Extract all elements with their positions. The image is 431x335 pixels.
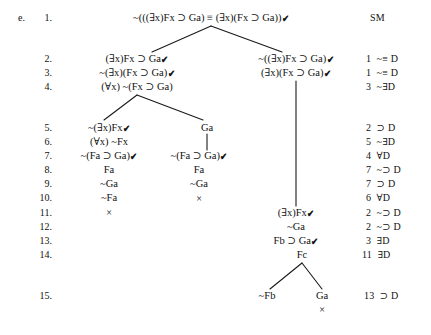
tree-node-formula: ~Fb [259,290,276,301]
tree-node-formula: ~Ga [287,221,305,232]
justification: 2 ~⊃ D [366,221,401,232]
tree-node: Ga [316,290,328,302]
tree-node-formula: ~((∃x)Fx ⊃ Ga) [258,53,326,64]
line-number: 14. [30,249,52,260]
justification-rule: SM [370,12,385,23]
branch-closed-icon: × [319,304,325,315]
justification-rule: ⊃ D [377,178,396,189]
justification: 11 ∃D [362,249,390,260]
justification-rule: ∃D [377,235,390,246]
justification-reference: 7 [366,178,371,189]
justification-reference: 7 [366,164,371,175]
line-number: 4. [30,81,52,92]
tree-node-formula: Ga [316,290,328,301]
justification: 7 ⊃ D [366,178,395,189]
justification-reference: 1 [366,67,371,78]
line-number: 10. [30,192,52,203]
justification-reference: 3 [366,235,371,246]
tree-node-formula: ~Ga [100,178,118,189]
tree-node: ~((∃x)Fx ⊃ Ga)✔ [258,53,334,65]
tree-node-formula: ~Ga [190,178,208,189]
tree-node: Fa [194,164,205,176]
justification-reference: 2 [366,207,371,218]
tree-node: (∃x)Fx✔ [278,207,315,219]
line-number: 9. [30,178,52,189]
justification-reference: 1 [366,53,371,64]
justification-rule: ~∃D [377,81,396,92]
tree-node: ~Ga [190,178,208,190]
tree-node-formula: ~(Fa ⊃ Ga) [171,150,220,161]
justification-rule: ⊃ D [380,290,399,301]
tree-node: ~(Fa ⊃ Ga)✔ [171,150,228,162]
tree-node: Fc [297,249,308,261]
justification-rule: ~⊃ D [377,207,401,218]
justification-rule: ∀D [377,150,391,161]
tree-node: ~Fb [259,290,276,302]
tree-node-formula: (∀x) ~Fx [90,136,128,147]
line-number: 2. [30,53,52,64]
tree-node: ~Fa [101,192,117,204]
justification-rule: ~⊃ D [377,221,401,232]
line-number: 11. [30,207,52,218]
problem-label: e. [18,12,25,23]
tree-node-formula: ~(Fa ⊃ Ga) [81,150,130,161]
tree-node-formula: (∀x) ~(Fx ⊃ Ga) [101,81,172,92]
tree-node: (∃x)Fx ⊃ Ga✔ [106,53,169,65]
check-icon: ✔ [327,54,333,66]
branch-closed-icon: × [106,207,112,218]
tree-node-formula: (∃x)Fx [278,207,307,218]
line-number: 8. [30,164,52,175]
tree-node: ~(Fa ⊃ Ga)✔ [81,150,138,162]
tree-node-formula: (∃x)(Fx ⊃ Ga) [261,67,323,78]
line-number: 15. [30,290,52,301]
check-icon: ✔ [282,13,288,25]
tree-node-formula: Fc [297,249,308,260]
tree-node: Fb ⊃ Ga✔ [274,235,319,247]
tree-node-formula: Ga [201,122,213,133]
line-number: 1. [30,12,52,23]
check-icon: ✔ [168,68,174,80]
tree-node: ~Ga [287,221,305,233]
justification-reference: 11 [362,249,372,260]
justification: 1 ~≡ D [366,53,398,64]
truth-tree-page: e. 1.2.3.4.5.6.7.8.9.10.11.12.13.14.15. … [0,0,431,335]
tree-node-formula: Fa [104,164,115,175]
line-number: 13. [30,235,52,246]
check-icon: ✔ [312,236,318,248]
tree-node: ~(∃x)(Fx ⊃ Ga)✔ [99,67,175,79]
tree-node-formula: ~(((∃x)Fx ⊃ Ga) ≡ (∃x)(Fx ⊃ Ga)) [133,12,281,23]
justification-rule: ∀D [377,192,391,203]
tree-node: ~(∃x)Fx✔ [88,122,130,134]
justification-rule: ⊃ D [377,122,396,133]
tree-node-formula: Fb ⊃ Ga [274,235,311,246]
tree-node: ~(((∃x)Fx ⊃ Ga) ≡ (∃x)(Fx ⊃ Ga))✔ [133,12,289,24]
justification-reference: 3 [366,81,371,92]
tree-node: (∀x) ~(Fx ⊃ Ga) [101,81,172,93]
tree-node: ~Ga [100,178,118,190]
justification-reference: 13 [364,290,374,301]
check-icon: ✔ [131,151,137,163]
justification: 5 ~∃D [366,136,395,147]
justification: 3 ∃D [366,235,390,246]
line-number: 12. [30,221,52,232]
line-number: 7. [30,150,52,161]
tree-node: (∀x) ~Fx [90,136,128,148]
justification-reference: 6 [366,192,371,203]
check-icon: ✔ [123,123,129,135]
tree-node-formula: ~Fa [101,192,117,203]
justification: 2 ⊃ D [366,122,395,133]
branch-closed-icon: × [196,193,202,204]
tree-node-formula: Fa [194,164,205,175]
justification-reference: 2 [366,221,371,232]
line-number: 5. [30,122,52,133]
justification: 13 ⊃ D [364,290,399,301]
justification: 6 ∀D [366,192,390,203]
tree-node-formula: ~(∃x)(Fx ⊃ Ga) [99,67,167,78]
justification: 1 ~≡ D [366,67,398,78]
justification-reference: 4 [366,150,371,161]
tree-node: (∃x)(Fx ⊃ Ga)✔ [261,67,331,79]
justification-rule: ~⊃ D [377,164,401,175]
tree-node-formula: (∃x)Fx ⊃ Ga [106,53,161,64]
justification-rule: ~≡ D [377,53,399,64]
justification-reference: 5 [366,136,371,147]
